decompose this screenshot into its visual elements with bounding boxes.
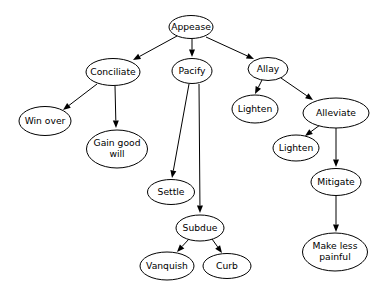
edge-line [182,239,189,246]
edge-line [140,36,177,56]
node-label: Allay [257,63,280,74]
node-label: will [109,148,124,159]
node-gain-good-will[interactable]: Gain goodwill [87,130,148,168]
edge-pacify-to-settle [170,84,189,178]
arrowhead-icon [133,54,141,60]
edge-mitigate-to-make-less-painful [333,196,339,232]
node-vanquish[interactable]: Vanquish [140,252,194,280]
arrowhead-icon [113,120,119,128]
edge-line [281,78,307,96]
node-subdue[interactable]: Subdue [176,215,224,241]
node-label: Appease [171,21,211,32]
node-label: Make less [313,240,358,251]
edge-allay-to-lighten-1 [255,80,262,94]
edge-allay-to-alleviate [281,78,313,100]
node-curb[interactable]: Curb [203,254,251,279]
node-label: Pacify [179,65,206,76]
node-label: painful [319,251,350,262]
edge-pacify-to-subdue [197,84,203,213]
node-label: Lighten [238,103,273,114]
node-settle[interactable]: Settle [148,180,195,205]
node-label: Gain good [94,137,141,148]
node-label: Curb [216,260,238,271]
edge-line [212,239,218,247]
node-label: Subdue [183,222,218,233]
synonym-graph: AppeaseConciliatePacifyAllayWin overGain… [0,0,379,293]
arrowhead-icon [305,93,313,100]
arrowhead-icon [305,129,313,136]
edge-appease-to-conciliate [133,36,177,60]
edge-alleviate-to-mitigate [333,128,339,167]
edge-subdue-to-vanquish [177,239,189,252]
edge-line [199,84,200,206]
edge-alleviate-to-lighten-2 [305,125,320,136]
node-mitigate[interactable]: Mitigate [311,169,361,196]
node-pacify[interactable]: Pacify [172,59,212,84]
edge-line [206,37,247,56]
node-lighten-1[interactable]: Lighten [232,95,278,123]
arrowhead-icon [333,225,339,233]
node-win-over[interactable]: Win over [19,107,71,136]
node-make-less-painful[interactable]: Make lesspainful [303,233,368,271]
edge-appease-to-pacify [189,39,195,57]
node-alleviate[interactable]: Alleviate [303,98,369,128]
arrowhead-icon [63,103,71,110]
node-label: Alleviate [316,107,356,118]
edge-line [115,86,116,121]
edge-line [258,80,262,87]
arrowhead-icon [170,170,176,178]
edge-line [69,84,97,105]
diagram-canvas: AppeaseConciliatePacifyAllayWin overGain… [0,0,379,293]
nodes-layer: AppeaseConciliatePacifyAllayWin overGain… [19,16,369,281]
node-appease[interactable]: Appease [169,16,213,39]
edge-conciliate-to-gain-good-will [113,86,119,128]
arrowhead-icon [255,86,261,94]
node-lighten-2[interactable]: Lighten [273,135,319,161]
node-conciliate[interactable]: Conciliate [86,59,140,86]
node-label: Vanquish [146,260,188,271]
arrowhead-icon [197,205,203,213]
edge-subdue-to-curb [212,239,222,253]
node-label: Settle [158,186,185,197]
node-label: Mitigate [317,176,355,187]
edge-conciliate-to-win-over [63,84,97,110]
edge-line [173,84,189,171]
node-label: Lighten [279,142,314,153]
node-allay[interactable]: Allay [248,58,288,81]
node-label: Conciliate [90,66,136,77]
arrowhead-icon [189,50,195,58]
arrowhead-icon [246,53,254,59]
node-label: Win over [25,115,66,126]
arrowhead-icon [215,245,222,253]
edge-appease-to-allay [206,37,254,59]
arrowhead-icon [333,160,339,168]
